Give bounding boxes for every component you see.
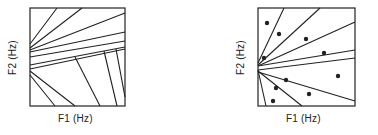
data-point bbox=[322, 51, 326, 55]
data-point bbox=[284, 78, 288, 82]
data-point bbox=[336, 74, 340, 78]
data-point bbox=[304, 37, 308, 41]
plot-frame bbox=[258, 8, 355, 106]
data-point bbox=[274, 86, 278, 90]
right-y-axis-label: F2 (Hz) bbox=[235, 36, 246, 80]
right-plot-lines-and-points bbox=[0, 0, 378, 135]
data-point bbox=[307, 92, 311, 96]
boundary-line bbox=[258, 8, 320, 65]
data-point bbox=[277, 32, 281, 36]
boundary-line bbox=[258, 72, 355, 101]
data-point bbox=[262, 56, 266, 60]
boundary-line bbox=[258, 70, 266, 106]
right-x-axis-label: F1 (Hz) bbox=[286, 113, 321, 124]
data-point bbox=[265, 21, 269, 25]
right-panel: F2 (Hz) F1 (Hz) bbox=[0, 0, 378, 135]
data-point bbox=[271, 99, 275, 103]
